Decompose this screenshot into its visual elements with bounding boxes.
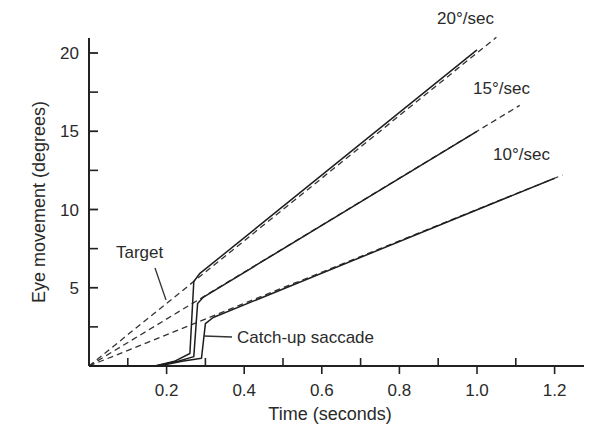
label-10-deg-per-sec: 10°/sec [493, 145, 550, 164]
y-tick-label: 5 [70, 279, 79, 298]
target-line [89, 37, 496, 366]
y-ticks: 5101520 [60, 44, 98, 327]
x-tick-label: 0.4 [232, 381, 256, 400]
x-ticks: 0.20.40.60.81.01.2 [128, 358, 567, 400]
saccade-pointer-line [204, 336, 232, 337]
y-tick-label: 15 [60, 122, 79, 141]
label-catch-up-saccade: Catch-up saccade [237, 328, 374, 347]
x-tick-label: 0.6 [310, 381, 334, 400]
target-pointer-line [155, 268, 166, 300]
y-tick-label: 20 [60, 44, 79, 63]
x-tick-label: 0.8 [388, 381, 412, 400]
label-15-deg-per-sec: 15°/sec [473, 79, 530, 98]
y-tick-label: 10 [60, 201, 79, 220]
x-axis-title: Time (seconds) [268, 404, 391, 424]
x-tick-label: 0.2 [155, 381, 179, 400]
x-tick-label: 1.0 [465, 381, 489, 400]
y-axis-title: Eye movement (degrees) [29, 101, 49, 303]
label-target: Target [116, 243, 164, 262]
x-tick-label: 1.2 [543, 381, 567, 400]
chart-canvas: 5101520 0.20.40.60.81.01.2 Time (seconds… [0, 0, 594, 442]
label-20-deg-per-sec: 20°/sec [437, 9, 494, 28]
